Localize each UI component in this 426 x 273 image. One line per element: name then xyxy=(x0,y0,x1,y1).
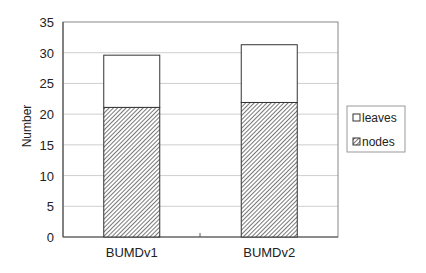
legend: leaves nodes xyxy=(347,106,405,152)
y-tick-label: 15 xyxy=(40,138,54,153)
x-tick-label: BUMDv2 xyxy=(243,245,295,260)
y-tick-labels: 05101520253035 xyxy=(40,15,54,245)
y-axis-label: Number xyxy=(20,105,34,148)
y-tick-label: 0 xyxy=(47,230,54,245)
legend-label-leaves: leaves xyxy=(362,111,397,125)
stacked-bar-chart: 05101520253035 BUMDv1BUMDv2 Number leave… xyxy=(0,0,426,273)
y-tick-label: 20 xyxy=(40,107,54,122)
y-tick-label: 35 xyxy=(40,15,54,30)
bar-segment-leaves xyxy=(241,45,297,103)
bar-segment-nodes xyxy=(241,102,297,237)
x-tick-label: BUMDv1 xyxy=(106,245,158,260)
legend-swatch-leaves-icon xyxy=(353,114,360,121)
legend-label-nodes: nodes xyxy=(362,135,395,149)
bars xyxy=(104,45,298,237)
bar-segment-leaves xyxy=(104,55,160,107)
y-tick-label: 25 xyxy=(40,76,54,91)
y-tick-label: 5 xyxy=(47,199,54,214)
legend-swatch-nodes-icon xyxy=(353,138,360,145)
y-tick-label: 30 xyxy=(40,46,54,61)
y-tick-label: 10 xyxy=(40,169,54,184)
bar-segment-nodes xyxy=(104,107,160,237)
x-tick-labels: BUMDv1BUMDv2 xyxy=(106,245,296,260)
